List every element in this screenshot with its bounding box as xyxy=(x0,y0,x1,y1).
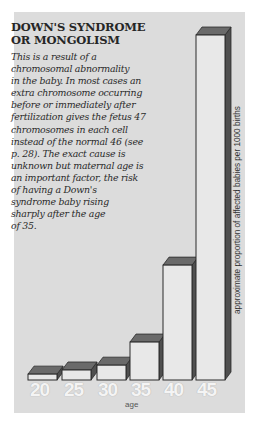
x-tick: 20 xyxy=(30,379,49,401)
x-axis-ticks: 20 25 30 35 40 45 xyxy=(14,379,224,401)
bar-40 xyxy=(163,257,198,380)
bar-30 xyxy=(97,357,132,380)
x-tick: 40 xyxy=(164,379,183,401)
bar-45 xyxy=(196,27,231,380)
y-axis-label: approximate proportion of affected babie… xyxy=(233,106,242,314)
x-axis-label: age xyxy=(125,400,138,409)
bar-20 xyxy=(28,366,63,380)
x-tick: 25 xyxy=(64,379,83,401)
bar-25 xyxy=(62,362,97,380)
x-tick: 35 xyxy=(131,379,150,401)
bar-35 xyxy=(130,334,165,380)
x-tick: 30 xyxy=(98,379,117,401)
x-tick: 45 xyxy=(197,379,216,401)
bar-chart xyxy=(0,0,256,431)
